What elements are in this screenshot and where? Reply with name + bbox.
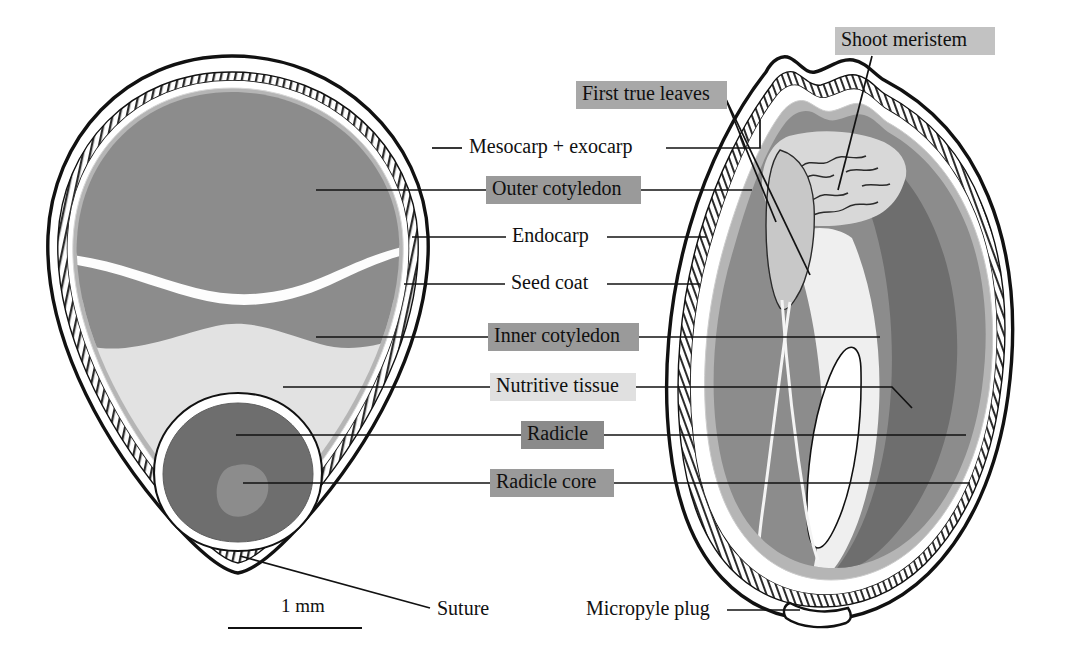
figure-svg: Mesocarp + exocarp Outer cotyledon Endoc… (0, 0, 1090, 665)
label-mesocarp-exocarp[interactable]: Mesocarp + exocarp (469, 135, 632, 158)
label-outer-cotyledon-text: Outer cotyledon (492, 177, 621, 200)
label-micropyle-plug[interactable]: Micropyle plug (586, 597, 710, 620)
label-outer-cotyledon[interactable]: Outer cotyledon (486, 176, 641, 204)
label-first-true-leaves[interactable]: First true leaves (576, 81, 727, 109)
leader-suture (240, 556, 430, 608)
label-suture-text: Suture (437, 597, 489, 619)
label-nutritive-tissue[interactable]: Nutritive tissue (490, 373, 636, 401)
label-radicle-core[interactable]: Radicle core (490, 469, 614, 497)
label-shoot-meristem[interactable]: Shoot meristem (835, 27, 995, 55)
scale-bar-label: 1 mm (281, 595, 325, 616)
label-inner-cotyledon[interactable]: Inner cotyledon (488, 323, 639, 351)
label-endocarp-text: Endocarp (512, 224, 589, 247)
label-micropyle-plug-text: Micropyle plug (586, 597, 710, 620)
scale-bar: 1 mm (228, 595, 362, 628)
transverse-section (48, 56, 428, 573)
label-nutritive-tissue-text: Nutritive tissue (496, 374, 619, 396)
label-endocarp[interactable]: Endocarp (512, 224, 589, 247)
label-shoot-meristem-text: Shoot meristem (841, 28, 968, 50)
label-radicle[interactable]: Radicle (521, 421, 604, 449)
label-inner-cotyledon-text: Inner cotyledon (494, 324, 620, 347)
radicle-group-left (154, 393, 322, 551)
label-mesocarp-exocarp-text: Mesocarp + exocarp (469, 135, 632, 158)
label-seed-coat-text: Seed coat (511, 271, 589, 293)
label-seed-coat[interactable]: Seed coat (511, 271, 589, 293)
label-suture[interactable]: Suture (437, 597, 489, 619)
label-radicle-core-text: Radicle core (496, 470, 597, 492)
label-radicle-text: Radicle (527, 422, 588, 444)
longitudinal-section (667, 57, 1020, 627)
seed-anatomy-figure: Mesocarp + exocarp Outer cotyledon Endoc… (0, 0, 1090, 665)
label-first-true-leaves-text: First true leaves (582, 82, 710, 104)
